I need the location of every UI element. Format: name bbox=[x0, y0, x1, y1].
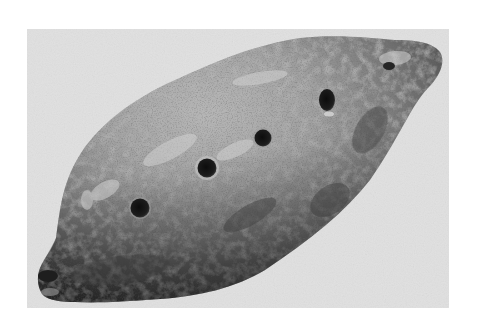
finger-hole bbox=[198, 159, 217, 178]
finger-hole bbox=[131, 199, 150, 218]
thumb-hole bbox=[383, 62, 395, 70]
hole-rim bbox=[324, 112, 334, 117]
ocarina-photo bbox=[0, 0, 487, 331]
finger-hole bbox=[319, 89, 335, 111]
finger-hole bbox=[255, 130, 272, 147]
